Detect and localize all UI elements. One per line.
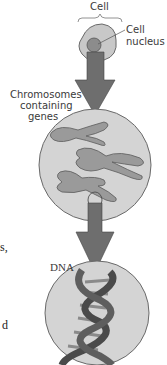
chromosomes-label-line1: Chromosomes [10,89,82,100]
edge-text-fragment-top: s, [0,240,8,255]
cell-nucleus-label-line2: nucleus [126,36,165,47]
edge-text-fragment-bottom: d [2,318,8,333]
dna-label: DNA [50,262,74,273]
cell-bracket [78,14,122,22]
cell-nucleus [87,38,101,52]
cell-label: Cell [90,1,109,12]
gene-hierarchy-diagram [0,0,167,365]
chromosomes-label-line2: containing [20,100,73,111]
cell-nucleus-label-line1: Cell [126,24,145,35]
arrow-cell-to-chromosomes [75,52,115,115]
chromosomes-label-line3: genes [28,111,58,122]
